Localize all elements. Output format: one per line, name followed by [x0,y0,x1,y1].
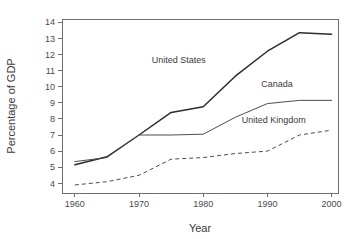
axis-ticks: 456789101112131419601970198019902000 [45,17,342,209]
x-tick-label: 1980 [193,199,213,209]
plot-frame [62,19,338,193]
x-tick-label: 1990 [257,199,277,209]
series-label-united-states: United States [152,55,207,65]
y-tick-label: 12 [45,50,55,60]
series-label-canada: Canada [261,79,293,89]
axes [62,19,338,193]
series-label-united-kingdom: United Kingdom [242,115,306,125]
y-tick-label: 7 [50,130,55,140]
y-tick-label: 9 [50,98,55,108]
y-tick-label: 13 [45,34,55,44]
series-line-united-kingdom [75,130,332,185]
y-tick-label: 4 [50,179,55,189]
x-tick-label: 1970 [129,199,149,209]
series-line-united-states [75,33,332,165]
chart-figure: 456789101112131419601970198019902000 Uni… [0,0,356,239]
y-tick-label: 10 [45,82,55,92]
line-chart: 456789101112131419601970198019902000 Uni… [0,0,356,239]
y-tick-label: 8 [50,114,55,124]
y-tick-label: 6 [50,146,55,156]
y-axis-title: Percentage of GDP [5,58,17,153]
x-axis-title: Year [189,222,212,234]
y-tick-label: 14 [45,17,55,27]
x-tick-label: 1960 [65,199,85,209]
x-tick-label: 2000 [322,199,342,209]
y-tick-label: 5 [50,162,55,172]
series-annotations: United StatesCanadaUnited Kingdom [152,55,306,125]
y-tick-label: 11 [46,66,55,76]
